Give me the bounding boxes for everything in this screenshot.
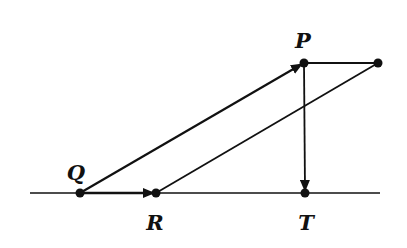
- label-p: P: [294, 28, 312, 53]
- vector-pt: [304, 63, 305, 191]
- point-s: [374, 59, 383, 68]
- vector-qp: [80, 64, 302, 193]
- vector-diagram: Q P R T: [0, 0, 407, 248]
- point-t: [301, 189, 310, 198]
- label-t: T: [298, 210, 315, 235]
- point-q: [76, 189, 85, 198]
- label-q: Q: [67, 160, 85, 185]
- segment-rs: [156, 63, 378, 193]
- point-r: [152, 189, 161, 198]
- label-r: R: [145, 210, 163, 235]
- point-p: [300, 59, 309, 68]
